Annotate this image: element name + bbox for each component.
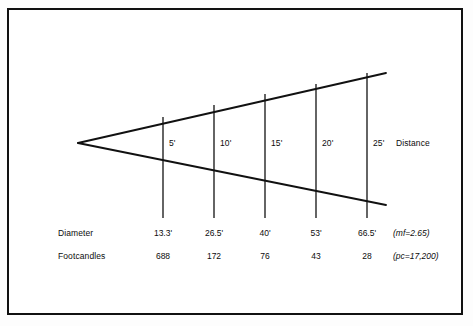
- footcandles-value-15: 76: [260, 252, 269, 261]
- footcandles-value-5: 688: [156, 252, 170, 261]
- diagram-page: 5' 10' 15' 20' 25' Distance Diameter 13.…: [0, 0, 473, 326]
- diameter-value-15: 40': [259, 229, 270, 238]
- diameter-value-25: 66.5': [358, 229, 376, 238]
- distance-label-10: 10': [220, 139, 231, 148]
- peak-candlepower-note: (pc=17,200): [393, 252, 439, 261]
- footcandles-value-25: 28: [362, 252, 371, 261]
- diameter-value-10: 26.5': [205, 229, 223, 238]
- distance-label-5: 5': [169, 139, 176, 148]
- distance-label-20: 20': [322, 139, 333, 148]
- multiplying-factor-note: (mf=2.65): [393, 229, 430, 238]
- distance-label-25: 25': [373, 139, 384, 148]
- distance-axis-label: Distance: [396, 139, 430, 148]
- diameter-row-label: Diameter: [58, 229, 93, 238]
- diameter-value-20: 53': [310, 229, 321, 238]
- diameter-value-5: 13.3': [154, 229, 172, 238]
- footcandles-value-20: 43: [311, 252, 320, 261]
- beam-lower-edge-line: [78, 143, 386, 205]
- beam-upper-edge-line: [78, 73, 386, 143]
- footcandles-row-label: Footcandles: [58, 252, 105, 261]
- distance-label-15: 15': [271, 139, 282, 148]
- footcandles-value-10: 172: [207, 252, 221, 261]
- beam-cone-drawing: [0, 0, 473, 326]
